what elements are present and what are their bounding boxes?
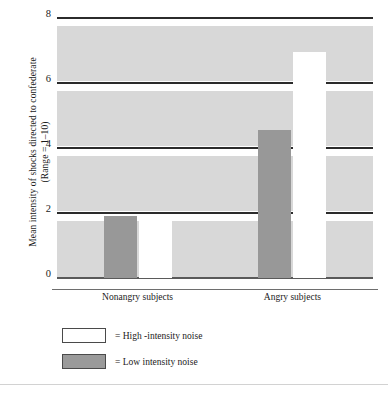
y-tick-label-8: 8 <box>46 8 51 19</box>
chart-legend: = High -intensity noise = Low intensity … <box>62 326 202 378</box>
bar-angry-high-intensity-noise <box>293 52 326 278</box>
category-label-angry: Angry subjects <box>206 292 378 302</box>
gridline-8: 8 <box>57 17 373 19</box>
category-axis-rule-angry <box>206 289 378 290</box>
y-axis-title-line2: (Range = 1–10) <box>39 27 51 277</box>
y-tick-label-6: 6 <box>46 73 51 84</box>
legend-swatch-high-intensity-icon <box>62 328 106 343</box>
y-axis-title: Mean intensity of shocks directed to con… <box>27 27 51 277</box>
legend-label-low-intensity: = Low intensity noise <box>115 357 198 367</box>
plot-area: 02468 <box>57 18 373 278</box>
footer-rule <box>0 384 388 385</box>
y-tick-label-4: 4 <box>46 138 51 149</box>
legend-swatch-low-intensity-icon <box>62 354 106 369</box>
bar-angry-low-intensity-noise <box>258 130 291 278</box>
y-axis-title-line1: Mean intensity of shocks directed to con… <box>28 57 38 246</box>
bar-nonangry-low-intensity-noise <box>104 216 137 278</box>
bar-nonangry-high-intensity-noise <box>139 218 172 278</box>
bar-chart-figure: Mean intensity of shocks directed to con… <box>0 0 388 394</box>
y-tick-label-2: 2 <box>46 203 51 214</box>
category-axis-rule-nonangry <box>52 289 224 290</box>
category-label-nonangry: Nonangry subjects <box>52 292 224 302</box>
legend-item-high-intensity: = High -intensity noise <box>62 326 202 345</box>
legend-label-high-intensity: = High -intensity noise <box>115 331 202 341</box>
legend-item-low-intensity: = Low intensity noise <box>62 352 202 371</box>
y-tick-label-0: 0 <box>46 268 51 279</box>
